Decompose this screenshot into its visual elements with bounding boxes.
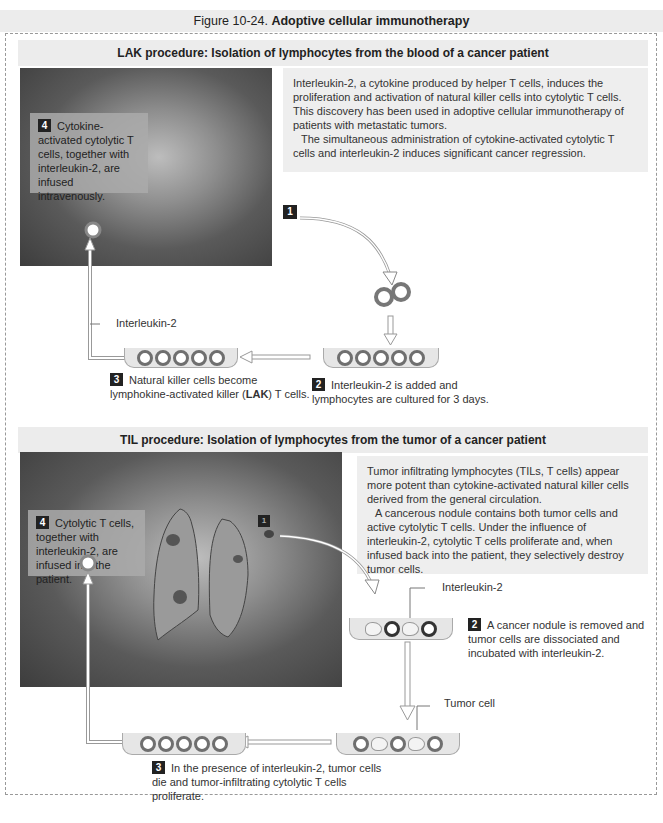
lymphocyte <box>373 350 389 366</box>
lymphocyte <box>209 350 225 366</box>
t-cell <box>353 736 369 752</box>
t-cell <box>212 736 228 752</box>
step-number-badge: 2 <box>468 618 481 631</box>
til-dish-step3 <box>122 733 246 755</box>
lymphocyte <box>191 350 207 366</box>
lymphocyte <box>337 350 353 366</box>
lymphocyte <box>355 350 371 366</box>
lymphocyte <box>409 350 425 366</box>
t-cell <box>194 736 210 752</box>
lak-step3-caption: 3Natural killer cells become lymphokine-… <box>110 373 310 401</box>
til-il2-label: Interleukin-2 <box>442 581 503 593</box>
lymphocyte <box>173 350 189 366</box>
t-cell <box>384 621 400 637</box>
til-step2-caption: 2A cancer nodule is removed and tumor ce… <box>468 618 648 660</box>
til-step3-caption: 3In the presence of interleukin-2, tumor… <box>152 761 392 803</box>
tumor-cell <box>371 737 388 751</box>
step-number-badge: 3 <box>152 761 165 774</box>
til-dish-mixed <box>336 733 460 755</box>
tumor-cell <box>402 622 419 636</box>
lak-dish-step3 <box>124 348 238 368</box>
til-tumor-cell-label: Tumor cell <box>444 697 495 709</box>
t-cell <box>158 736 174 752</box>
lak-step1-badge: 1 <box>283 205 297 219</box>
t-cell <box>390 736 406 752</box>
til-dish-step2 <box>349 618 453 640</box>
til-flow-arrows <box>0 420 663 800</box>
t-cell <box>427 736 443 752</box>
t-cell <box>421 621 437 637</box>
lak-il2-label: Interleukin-2 <box>116 317 177 329</box>
t-cell <box>140 736 156 752</box>
lymphocyte <box>137 350 153 366</box>
tumor-cell <box>365 622 382 636</box>
tumor-cell <box>408 737 425 751</box>
lymphocyte <box>391 350 407 366</box>
lymphocyte <box>155 350 171 366</box>
step-number-badge: 2 <box>312 378 325 391</box>
step-number-badge: 3 <box>110 373 123 386</box>
lak-dish-step2 <box>323 348 439 368</box>
lak-step2-caption: 2Interleukin-2 is added and lymphocytes … <box>312 378 512 406</box>
t-cell <box>176 736 192 752</box>
